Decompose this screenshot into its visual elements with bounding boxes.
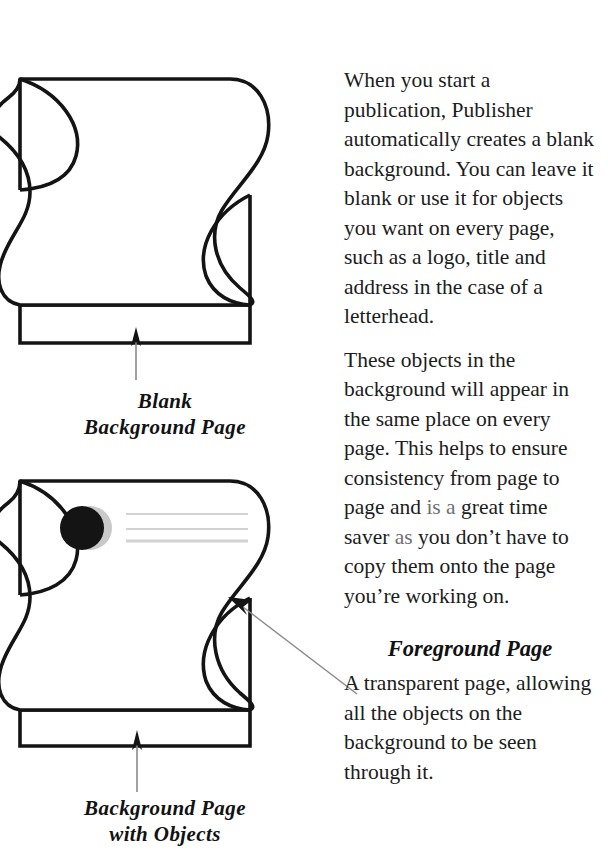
paragraph-background-objects: These objects in the background will app… <box>344 346 596 612</box>
paragraph-2-faded-segment-1: is a <box>426 495 455 519</box>
paragraph-2-faded-segment-2: as <box>395 525 413 549</box>
foreground-page-heading: Foreground Page <box>344 635 596 663</box>
leader-line <box>243 607 357 694</box>
leader-arrow-head <box>228 597 252 615</box>
paragraph-2-segment-1: These objects in the background will app… <box>344 348 569 520</box>
figure-page: Blank Background Page <box>0 0 608 855</box>
body-text-column: When you start a publication, Publisher … <box>344 66 596 787</box>
paragraph-blank-background: When you start a publication, Publisher … <box>344 66 596 332</box>
paragraph-foreground-page: A transparent page, allowing all the obj… <box>344 669 596 787</box>
